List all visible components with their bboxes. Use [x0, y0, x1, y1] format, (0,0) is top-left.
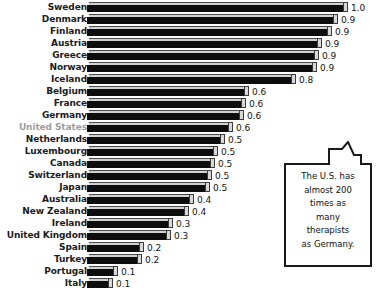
bar-body	[87, 197, 189, 204]
bar-end-cap	[312, 62, 317, 72]
category-label: New Zealand	[0, 206, 87, 217]
bar-body	[87, 125, 228, 132]
bar-body	[87, 65, 312, 72]
bar-end-cap	[166, 230, 171, 240]
bar-end-cap	[333, 14, 338, 24]
bar-body	[87, 53, 314, 60]
category-label: Switzerland	[0, 170, 87, 181]
category-label: Netherlands	[0, 134, 87, 145]
bar	[87, 254, 142, 265]
bar-body	[87, 5, 343, 12]
bar-end-cap	[139, 242, 144, 252]
category-label: Turkey	[0, 254, 87, 265]
callout-line: times as	[288, 197, 368, 211]
value-label: 0.5	[218, 159, 232, 169]
callout-line: almost 200	[288, 184, 368, 198]
value-label: 0.5	[213, 183, 227, 193]
bar-end-cap	[189, 194, 194, 204]
bar	[87, 266, 118, 277]
value-label: 0.2	[145, 255, 159, 265]
value-label: 0.1	[121, 267, 135, 277]
bar-end-cap	[137, 254, 142, 264]
bar-row: Denmark0.9	[0, 14, 389, 26]
bar-end-cap	[244, 86, 249, 96]
bar-end-cap	[241, 98, 246, 108]
value-label: 0.3	[174, 231, 188, 241]
bar-end-cap	[184, 206, 189, 216]
bar-body	[87, 209, 184, 216]
bar-row: Portugal0.1	[0, 266, 389, 278]
bar-body	[87, 281, 108, 288]
bar-body	[87, 185, 205, 192]
bar-row: Italy0.1	[0, 278, 389, 290]
value-label: 0.9	[322, 51, 336, 61]
bar-end-cap	[228, 122, 233, 132]
category-label: Spain	[0, 242, 87, 253]
bar-end-cap	[314, 50, 319, 60]
bar	[87, 86, 249, 97]
callout-line: therapists	[288, 224, 368, 238]
bar-body	[87, 245, 139, 252]
bar-body	[87, 29, 327, 36]
value-label: 0.5	[215, 171, 229, 181]
bar-body	[87, 233, 166, 240]
bar-end-cap	[210, 158, 215, 168]
value-label: 0.4	[197, 195, 211, 205]
bar-end-cap	[291, 74, 296, 84]
value-label: 0.1	[116, 279, 130, 289]
category-label: Greece	[0, 50, 87, 61]
bar	[87, 170, 212, 181]
bar	[87, 194, 194, 205]
bar	[87, 50, 319, 61]
value-label: 0.9	[341, 15, 355, 25]
bar-end-cap	[327, 26, 332, 36]
bar-row: United States0.6	[0, 122, 389, 134]
value-label: 0.5	[221, 147, 235, 157]
bar-end-cap	[239, 110, 244, 120]
bar-body	[87, 137, 220, 144]
bar	[87, 74, 296, 85]
value-label: 0.6	[236, 123, 250, 133]
bar-row: Greece0.9	[0, 50, 389, 62]
category-label: Denmark	[0, 14, 87, 25]
bar	[87, 218, 173, 229]
callout-line: many	[288, 211, 368, 225]
bar	[87, 26, 332, 37]
value-label: 1.0	[351, 3, 365, 13]
bar	[87, 110, 244, 121]
category-label: Canada	[0, 158, 87, 169]
value-label: 0.6	[247, 111, 261, 121]
category-label: Luxembourg	[0, 146, 87, 157]
value-label: 0.4	[192, 207, 206, 217]
bar-body	[87, 101, 241, 108]
bar-row: Iceland0.8	[0, 74, 389, 86]
bar-row: Belgium0.6	[0, 86, 389, 98]
bar-body	[87, 269, 113, 276]
value-label: 0.6	[252, 87, 266, 97]
bar-row: Austria0.9	[0, 38, 389, 50]
bar	[87, 242, 144, 253]
bar-end-cap	[213, 146, 218, 156]
category-label: France	[0, 98, 87, 109]
value-label: 0.9	[325, 39, 339, 49]
category-label: Austria	[0, 38, 87, 49]
bar-end-cap	[207, 170, 212, 180]
bar-row: France0.6	[0, 98, 389, 110]
bar-row: Finland0.9	[0, 26, 389, 38]
bar	[87, 158, 215, 169]
bar	[87, 182, 210, 193]
bar-body	[87, 113, 239, 120]
bar-end-cap	[168, 218, 173, 228]
bar	[87, 38, 322, 49]
bar-body	[87, 17, 333, 24]
bar	[87, 62, 317, 73]
callout-line: The U.S. has	[288, 170, 368, 184]
bar-end-cap	[205, 182, 210, 192]
callout-tail-icon	[328, 141, 362, 165]
bar-row: Sweden1.0	[0, 2, 389, 14]
value-label: 0.9	[320, 63, 334, 73]
bar	[87, 230, 171, 241]
bar-row: Norway0.9	[0, 62, 389, 74]
category-label: Finland	[0, 26, 87, 37]
category-label: United States	[0, 122, 87, 133]
